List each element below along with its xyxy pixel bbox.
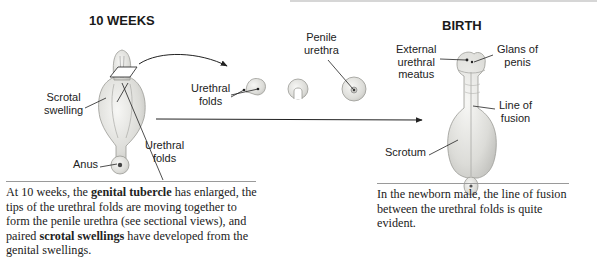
ten-weeks-title: 10 WEEKS <box>89 13 155 28</box>
left-caption-rule <box>6 181 256 182</box>
label-line: Line of <box>499 99 532 112</box>
label-scrotal-swelling: Scrotal swelling <box>44 91 83 116</box>
left-caption: At 10 weeks, the genital tubercle has en… <box>6 185 258 258</box>
caption-term-genital-tubercle: genital tubercle <box>91 185 172 199</box>
development-arrow <box>156 119 422 120</box>
label-penile-urethra: Penile urethra <box>304 31 339 56</box>
ten-week-genitalia-illustration <box>99 50 146 174</box>
label-line: Penile <box>304 31 339 44</box>
label-line: urethra <box>304 44 339 57</box>
label-line: swelling <box>44 104 83 117</box>
label-line: penis <box>497 56 538 69</box>
label-anus: Anus <box>73 158 98 171</box>
label-line: Scrotal <box>44 91 83 104</box>
label-line: Urethral <box>145 139 184 152</box>
right-caption: In the newborn male, the line of fusion … <box>377 187 577 231</box>
caption-term-scrotal-swellings: scrotal swellings <box>40 229 125 243</box>
label-line: Urethral <box>191 82 230 95</box>
right-caption-rule <box>377 183 569 184</box>
label-urethral-folds-section: Urethral folds <box>191 82 230 107</box>
label-scrotum: Scrotum <box>385 146 426 159</box>
label-line: fusion <box>499 112 532 125</box>
caption-text: At 10 weeks, the <box>6 185 91 199</box>
label-urethral-folds-main: Urethral folds <box>145 139 184 164</box>
label-glans-of-penis: Glans of penis <box>497 43 538 68</box>
label-line: External <box>396 43 436 56</box>
section-arrow-curved <box>139 54 227 66</box>
birth-genitalia-illustration <box>448 52 497 195</box>
label-line-of-fusion: Line of fusion <box>499 99 532 124</box>
birth-title: BIRTH <box>442 18 482 33</box>
label-line: urethral <box>396 56 436 69</box>
sectional-view-1 <box>243 79 266 96</box>
label-line: meatus <box>396 68 436 81</box>
label-line: Glans of <box>497 43 538 56</box>
sectional-view-2 <box>288 79 308 99</box>
label-line: folds <box>145 152 184 165</box>
label-external-urethral-meatus: External urethral meatus <box>396 43 436 81</box>
label-line: folds <box>191 95 230 108</box>
